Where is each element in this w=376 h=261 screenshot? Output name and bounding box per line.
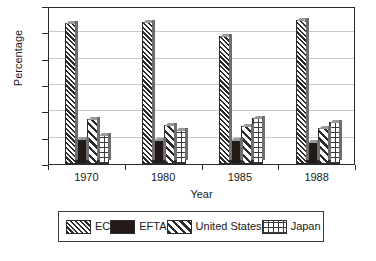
- legend-swatch-japan: [262, 220, 287, 234]
- bar-slot: [142, 8, 153, 164]
- x-tick-label-1985: 1985: [205, 172, 275, 183]
- legend-swatch-efta: [110, 220, 135, 234]
- x-tick-mark: [355, 165, 356, 170]
- legend-label: EC: [95, 221, 110, 232]
- bar-chart-figure: Percentage 0102030405060 197019801985198…: [0, 0, 376, 261]
- legend-swatch-ec: [66, 220, 91, 234]
- x-tick-mark: [202, 165, 203, 170]
- bar-group-1970: [65, 8, 109, 164]
- legend-entry-united-states[interactable]: United States: [167, 220, 262, 234]
- bar-slot: [296, 8, 307, 164]
- x-tick-mark: [125, 165, 126, 170]
- legend-label: EFTA: [139, 221, 166, 232]
- plot-inner: [49, 8, 354, 164]
- plot-area: [48, 7, 355, 165]
- x-tick-label-1970: 1970: [51, 172, 121, 183]
- x-axis-title: Year: [48, 188, 355, 200]
- bar-group-1980: [142, 8, 186, 164]
- bar-ec-1988: [296, 20, 307, 164]
- legend-entry-ec[interactable]: EC: [66, 220, 110, 234]
- bar-group-1985: [219, 8, 263, 164]
- chart-legend: ECEFTAUnited StatesJapan: [58, 211, 324, 242]
- bar-group-1988: [296, 8, 340, 164]
- bar-slot: [65, 8, 76, 164]
- x-tick-mark: [278, 165, 279, 170]
- x-tick-label-1988: 1988: [282, 172, 352, 183]
- legend-label: Japan: [291, 221, 321, 232]
- legend-swatch-united-states: [167, 220, 192, 234]
- legend-entry-japan[interactable]: Japan: [262, 220, 321, 234]
- bar-ec-1985: [219, 36, 230, 164]
- x-tick-label-1980: 1980: [128, 172, 198, 183]
- bar-slot: [219, 8, 230, 164]
- bar-ec-1980: [142, 22, 153, 164]
- legend-label: United States: [196, 221, 262, 232]
- bar-ec-1970: [65, 23, 76, 164]
- legend-entry-efta[interactable]: EFTA: [110, 220, 166, 234]
- y-axis-title: Percentage: [12, 8, 24, 108]
- x-tick-mark: [48, 165, 49, 170]
